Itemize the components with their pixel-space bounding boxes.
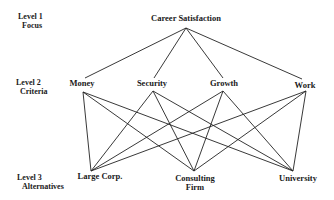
alternative-consulting-firm: Consulting Firm xyxy=(170,174,220,192)
focus-node: Career Satisfaction xyxy=(138,14,234,23)
criterion-money: Money xyxy=(62,79,102,88)
edge-focus-work xyxy=(186,28,302,79)
level-2-subtitle: Criteria xyxy=(16,87,48,96)
hierarchy-edges xyxy=(0,0,334,200)
edge-focus-money xyxy=(85,28,186,78)
consulting-line-2: Firm xyxy=(170,183,220,192)
alternative-large-corp: Large Corp. xyxy=(74,172,126,181)
level-3-subtitle: Alternatives xyxy=(17,182,64,191)
ahp-hierarchy-diagram: Level 1 Focus Level 2 Criteria Level 3 A… xyxy=(0,0,334,200)
alternative-university: University xyxy=(274,174,322,183)
level-1-label: Level 1 Focus xyxy=(18,12,43,30)
edge-focus-growth xyxy=(186,28,223,78)
level-3-label: Level 3 Alternatives xyxy=(17,173,64,191)
level-2-name: Level 2 xyxy=(16,78,48,87)
level-3-name: Level 3 xyxy=(17,173,64,182)
level-2-label: Level 2 Criteria xyxy=(16,78,48,96)
criterion-growth: Growth xyxy=(203,79,245,88)
level-1-subtitle: Focus xyxy=(18,21,43,30)
criterion-security: Security xyxy=(130,79,174,88)
level-1-name: Level 1 xyxy=(18,12,43,21)
criterion-work: Work xyxy=(290,81,320,90)
